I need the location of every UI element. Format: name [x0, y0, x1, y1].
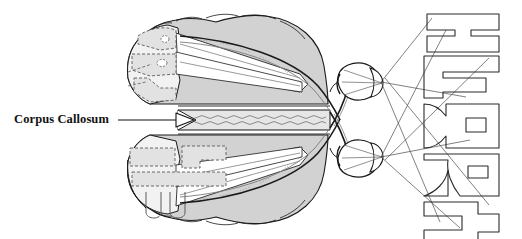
- cortex-letter-a-counter: [161, 36, 169, 43]
- ray-upper-eye-to-word-bottom: [381, 82, 440, 222]
- lower-hemisphere: [128, 135, 329, 225]
- stimulus-letter-t: [424, 202, 499, 239]
- cortex-letters-upper: [132, 28, 176, 102]
- stimulus-letter-a-counter: [466, 118, 486, 132]
- ray-lower-eye-to-word-top: [381, 30, 446, 157]
- eye-upper: [330, 63, 383, 100]
- stimulus-letter-r-counter: [468, 166, 488, 178]
- corpus-callosum: [178, 106, 330, 134]
- corpus-callosum-band: [178, 110, 330, 130]
- eye-lower: [330, 140, 383, 177]
- corpus-callosum-label: Corpus Callosum: [14, 112, 109, 127]
- stimulus-letter-r: [424, 154, 499, 196]
- ray-cross-upper: [385, 78, 489, 205]
- cortex-letter-h: [130, 148, 175, 166]
- upper-hemisphere: [128, 14, 329, 104]
- stimulus-word-heart: [424, 14, 499, 239]
- cortex-letter-r-counter: [157, 59, 167, 66]
- corpus-callosum-leader: [118, 113, 194, 127]
- cortex-letter-h-bar: [132, 172, 226, 186]
- figure-container: Corpus Callosum: [0, 0, 522, 239]
